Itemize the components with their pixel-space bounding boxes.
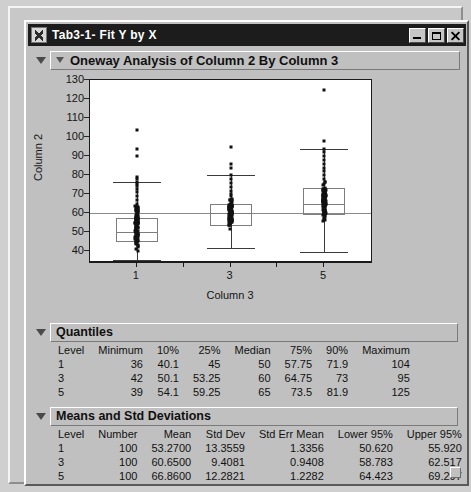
table-cell: 100 [91,442,144,456]
minimize-button[interactable] [409,28,426,43]
x-axis-title: Column 3 [206,289,253,301]
plot-frame[interactable] [89,79,372,262]
oneway-section-header[interactable]: Oneway Analysis of Column 2 By Column 3 [32,51,460,70]
column-header: Median [227,344,277,358]
column-header: Level [56,344,91,358]
minimize-icon [413,37,421,39]
table-cell: 40.1 [150,358,186,372]
table-cell: 59.25 [186,386,228,400]
table-cell: 125 [355,386,417,400]
table-cell: 53.2700 [144,442,198,456]
table-cell: 1 [56,442,91,456]
means-section-title: Means and Std Deviations [56,409,211,423]
table-cell: 100 [91,456,144,470]
table-cell: 55.920 [400,442,465,456]
quantiles-table: LevelMinimum10%25%Median75%90%Maximum136… [56,344,417,400]
outlier-point [323,174,326,177]
y-tick-label: 90 [72,149,84,161]
outlier-point [323,178,326,181]
table-cell: 5 [56,386,91,400]
table-row: 510066.860012.28211.228264.42369.297 [56,470,465,482]
y-axis-tick-labels: 405060708090100110120130 [50,77,84,277]
window-controls [409,28,464,43]
table-cell: 42 [91,372,150,386]
outlier-point [323,170,326,173]
table-cell: 65 [227,386,277,400]
table-cell: 58.783 [331,456,400,470]
table-cell: 1.3356 [252,442,331,456]
column-header: Minimum [91,344,150,358]
table-cell: 39 [91,386,150,400]
table-cell: 54.1 [150,386,186,400]
table-cell: 60 [227,372,277,386]
means-disclosure-triangle-icon[interactable] [36,413,46,420]
table-cell: 100 [91,470,144,482]
oneway-title-bar[interactable]: Oneway Analysis of Column 2 By Column 3 [50,51,460,70]
window-titlebar[interactable]: Tab3-1- Fit Y by X [28,24,466,46]
quantiles-disclosure-triangle-icon[interactable] [36,329,46,336]
table-header-row: LevelMinimum10%25%Median75%90%Maximum [56,344,417,358]
means-title-bar[interactable]: Means and Std Deviations [50,407,458,426]
table-cell: 81.9 [319,386,355,400]
table-cell: 64.423 [331,470,400,482]
close-button[interactable] [447,28,464,43]
table-cell: 60.6500 [144,456,198,470]
x-tick-label: 3 [226,269,232,281]
table-cell: 66.8600 [144,470,198,482]
column-header: 90% [319,344,355,358]
y-tick-label: 110 [66,111,84,123]
column-header: Mean [144,428,198,442]
table-cell: 71.9 [319,358,355,372]
quantiles-title-bar[interactable]: Quantiles [50,323,458,342]
table-cell: 0.9408 [252,456,331,470]
column-header: Upper 95% [400,428,465,442]
table-cell: 53.25 [186,372,228,386]
table-row: 110053.270013.35591.335650.62055.920 [56,442,465,456]
data-point [322,217,325,220]
y-tick-label: 100 [66,130,84,142]
desktop-background: Tab3-1- Fit Y by X Oneway Analysis of Co… [0,0,471,492]
quantiles-section-title: Quantiles [56,325,113,339]
table-cell: 12.2821 [198,470,252,482]
table-cell: 3 [56,372,91,386]
quantiles-section-header[interactable]: Quantiles [32,323,458,342]
oneway-disclosure-triangle-icon[interactable] [56,57,64,63]
table-cell: 45 [186,358,228,372]
x-tick-boundary [183,262,184,267]
table-cell: 5 [56,470,91,482]
outer-disclosure-triangle-icon[interactable] [36,57,46,64]
outlier-point [323,166,326,169]
table-cell: 13.3559 [198,442,252,456]
maximize-icon [432,32,441,40]
table-cell: 1 [56,358,91,372]
x-tick [323,262,324,267]
means-table: LevelNumberMeanStd DevStd Err MeanLower … [56,428,465,482]
y-tick-label: 130 [66,73,84,85]
outlier-point [323,155,326,158]
column-header: Maximum [355,344,417,358]
column-header: Std Dev [198,428,252,442]
table-row: 13640.1455057.7571.9104 [56,358,417,372]
outlier-point [323,162,326,165]
means-section: Means and Std Deviations LevelNumberMean… [38,407,458,482]
resize-grip[interactable] [450,467,461,478]
quantiles-section: Quantiles LevelMinimum10%25%Median75%90%… [38,323,458,400]
table-cell: 50.1 [150,372,186,386]
plot-inner: Column 2 405060708090100110120130 135 Co… [38,77,378,317]
table-cell: 50 [227,358,277,372]
column-header: Number [91,428,144,442]
x-tick-label: 5 [320,269,326,281]
oneway-plot-panel: Column 2 405060708090100110120130 135 Co… [38,77,458,317]
y-tick-label: 70 [72,187,84,199]
oneway-section-title: Oneway Analysis of Column 2 By Column 3 [70,53,338,68]
maximize-button[interactable] [428,28,445,43]
means-section-header[interactable]: Means and Std Deviations [32,407,458,426]
y-axis-title: Column 2 [32,134,44,181]
data-point [324,181,327,184]
column-header: Lower 95% [331,428,400,442]
window-title: Tab3-1- Fit Y by X [52,28,409,42]
data-point [322,194,325,197]
column-header: 75% [278,344,320,358]
box-plot-group [90,80,371,261]
y-tick-label: 50 [72,225,84,237]
